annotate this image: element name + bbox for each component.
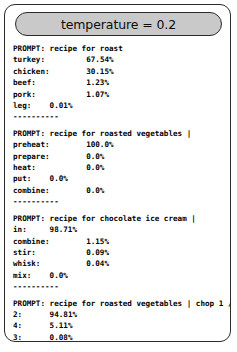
prediction-block: PROMPT: recipe for roastturkey: 67.54%ch…	[5, 43, 231, 123]
block-separator: ----------	[13, 196, 231, 207]
token-probability: 1.15%	[86, 237, 109, 246]
token-label: leg:	[13, 101, 31, 110]
prediction-row: heat: 0.0%	[13, 162, 231, 173]
prediction-row: combine: 1.15%	[13, 236, 231, 247]
token-label: turkey:	[13, 55, 45, 64]
prediction-row: pork: 1.07%	[13, 89, 231, 100]
prediction-row: prepare: 0.0%	[13, 151, 231, 162]
token-label: 2:	[13, 310, 22, 319]
token-label: pork:	[13, 90, 36, 99]
token-label: 4:	[13, 321, 22, 330]
token-probability: 0.01%	[50, 101, 73, 110]
prediction-block: PROMPT: recipe for roasted vegetables |p…	[5, 128, 231, 208]
prediction-row: beef: 1.23%	[13, 77, 231, 88]
token-probability: 1.07%	[86, 90, 109, 99]
token-probability: 0.08%	[50, 333, 73, 342]
prediction-block: PROMPT: recipe for chocolate ice cream |…	[5, 213, 231, 293]
prediction-row: put: 0.0%	[13, 173, 231, 184]
temperature-label: temperature = 0.2	[61, 17, 176, 32]
token-label: beef:	[13, 78, 36, 87]
token-label: chicken:	[13, 67, 50, 76]
token-probability: 0.0%	[86, 163, 104, 172]
token-probability: 100.0%	[86, 140, 113, 149]
token-probability: 0.0%	[50, 271, 68, 280]
block-separator: ----------	[13, 111, 231, 122]
prediction-row: whisk: 0.04%	[13, 258, 231, 269]
token-probability: 1.23%	[86, 78, 109, 87]
prediction-row: turkey: 67.54%	[13, 54, 231, 65]
temperature-header-capsule: temperature = 0.2	[15, 12, 222, 36]
prediction-row: stir: 0.09%	[13, 247, 231, 258]
prediction-row: 3: 0.08%	[13, 332, 231, 342]
token-probability: 0.04%	[86, 259, 109, 268]
prediction-row: mix: 0.0%	[13, 270, 231, 281]
token-probability: 30.15%	[86, 67, 113, 76]
token-label: put:	[13, 174, 31, 183]
token-probability: 0.09%	[86, 248, 109, 257]
token-label: whisk:	[13, 259, 40, 268]
predictions-list: PROMPT: recipe for roastturkey: 67.54%ch…	[5, 43, 231, 342]
token-probability: 0.0%	[86, 152, 104, 161]
token-label: preheat:	[13, 140, 50, 149]
token-label: 3:	[13, 333, 22, 342]
token-label: in:	[13, 225, 27, 234]
prediction-row: combine: 0.0%	[13, 185, 231, 196]
prompt-text: PROMPT: recipe for roasted vegetables |	[13, 128, 231, 139]
token-label: combine:	[13, 186, 50, 195]
output-panel: temperature = 0.2 PROMPT: recipe for roa…	[4, 4, 231, 342]
prediction-row: 2: 94.81%	[13, 309, 231, 320]
token-probability: 67.54%	[86, 55, 113, 64]
token-label: heat:	[13, 163, 36, 172]
prompt-text: PROMPT: recipe for chocolate ice cream |	[13, 213, 231, 224]
token-probability: 98.71%	[50, 225, 77, 234]
prediction-row: 4: 5.11%	[13, 320, 231, 331]
prediction-row: in: 98.71%	[13, 224, 231, 235]
token-probability: 94.81%	[50, 310, 77, 319]
block-separator: ----------	[13, 281, 231, 292]
prediction-block: PROMPT: recipe for roasted vegetables | …	[5, 298, 231, 342]
token-label: stir:	[13, 248, 36, 257]
token-probability: 0.0%	[50, 174, 68, 183]
token-label: combine:	[13, 237, 50, 246]
prediction-row: chicken: 30.15%	[13, 66, 231, 77]
prediction-row: leg: 0.01%	[13, 100, 231, 111]
prompt-text: PROMPT: recipe for roasted vegetables | …	[13, 298, 231, 309]
token-label: mix:	[13, 271, 31, 280]
token-probability: 5.11%	[50, 321, 73, 330]
token-label: prepare:	[13, 152, 50, 161]
prediction-row: preheat: 100.0%	[13, 139, 231, 150]
prompt-text: PROMPT: recipe for roast	[13, 43, 231, 54]
token-probability: 0.0%	[86, 186, 104, 195]
